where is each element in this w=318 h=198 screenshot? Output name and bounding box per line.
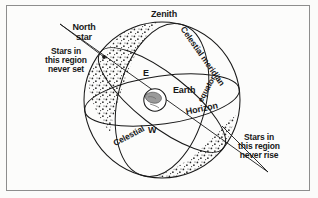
label-north-star-line2: star — [76, 32, 92, 42]
label-never-set: Stars inthis regionnever set — [36, 47, 96, 75]
label-north-star-line1: North — [72, 22, 95, 32]
label-west: W — [148, 126, 156, 136]
label-north-star: Northstar — [62, 23, 106, 42]
label-earth: Earth — [173, 86, 195, 96]
figure-page: Zenith Northstar Stars inthis regionneve… — [0, 0, 318, 198]
label-east: E — [143, 69, 149, 79]
celestial-sphere-diagram — [0, 0, 318, 198]
label-never-set-line3: never set — [48, 64, 84, 74]
earth-globe — [144, 89, 166, 111]
region-never-rise — [156, 112, 236, 178]
label-zenith: Zenith — [138, 10, 190, 20]
label-never-rise: Stars inthis regionnever rise — [228, 133, 290, 161]
label-never-rise-line3: never rise — [240, 150, 279, 160]
